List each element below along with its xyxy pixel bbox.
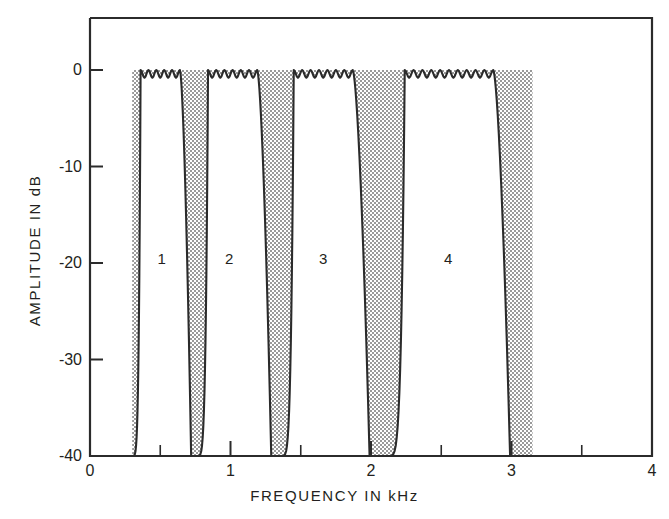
y-tick-label: -40 — [36, 447, 82, 465]
x-tick-label: 4 — [648, 462, 657, 480]
band-label-4: 4 — [444, 250, 452, 267]
band-label-3: 3 — [319, 250, 327, 267]
x-axis-title: FREQUENCY IN kHz — [0, 487, 669, 504]
x-tick-label: 2 — [367, 462, 376, 480]
figure-root: AMPLITUDE IN dB FREQUENCY IN kHz 01234 0… — [0, 0, 669, 519]
band-label-1: 1 — [157, 250, 165, 267]
x-tick-label: 3 — [507, 462, 516, 480]
y-tick-label: -10 — [36, 158, 82, 176]
band-label-2: 2 — [225, 250, 233, 267]
y-tick-label: 0 — [36, 61, 82, 79]
filter-band-2 — [197, 70, 271, 456]
y-tick-label: -20 — [36, 254, 82, 272]
filter-bank-response-chart: AMPLITUDE IN dB FREQUENCY IN kHz 01234 0… — [0, 0, 669, 519]
x-tick-label: 1 — [226, 462, 235, 480]
chart-canvas — [0, 0, 669, 519]
x-tick-label: 0 — [86, 462, 95, 480]
y-tick-label: -30 — [36, 351, 82, 369]
